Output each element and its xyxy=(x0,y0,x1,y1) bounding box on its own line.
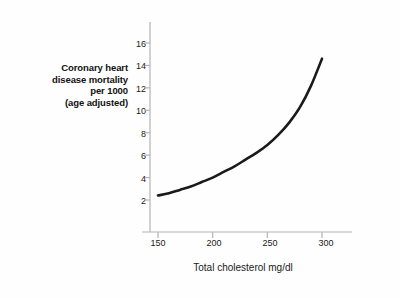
chd-mortality-curve xyxy=(158,59,322,196)
x-axis-ticks xyxy=(158,232,322,238)
y-axis-ticks xyxy=(145,43,150,200)
chart-figure: Coronary heart disease mortality per 100… xyxy=(0,0,400,298)
plot-area xyxy=(0,0,400,298)
